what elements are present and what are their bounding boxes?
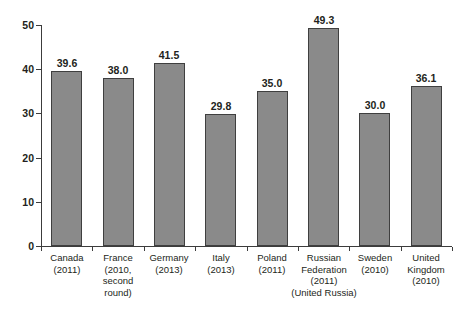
x-tick-mark bbox=[298, 247, 299, 251]
bar bbox=[308, 28, 339, 246]
y-tick-label-wrap: 30 bbox=[0, 108, 34, 118]
y-tick-label-wrap: 50 bbox=[0, 20, 34, 30]
y-tick-label: 30 bbox=[2, 108, 34, 118]
y-tick-label: 0 bbox=[2, 241, 34, 251]
bar bbox=[103, 78, 134, 246]
x-tick-mark bbox=[349, 247, 350, 251]
x-tick-mark bbox=[144, 247, 145, 251]
bar bbox=[411, 86, 442, 246]
bar bbox=[154, 63, 185, 246]
y-tick-mark bbox=[36, 25, 42, 26]
bar bbox=[205, 114, 236, 246]
bar-value-label: 38.0 bbox=[90, 65, 146, 76]
x-tick-mark bbox=[92, 247, 93, 251]
category-label-line: round) bbox=[83, 287, 153, 299]
y-tick-mark bbox=[36, 202, 42, 203]
y-tick-label-wrap: 0 bbox=[0, 241, 34, 251]
y-tick-label: 20 bbox=[2, 153, 34, 163]
y-tick-label-wrap: 40 bbox=[0, 64, 34, 74]
y-tick-label: 40 bbox=[2, 64, 34, 74]
category-label-line: (United Russia) bbox=[289, 287, 359, 299]
y-tick-label-wrap: 20 bbox=[0, 153, 34, 163]
bar-value-label: 49.3 bbox=[296, 15, 352, 26]
category-label-line: (2010) bbox=[391, 275, 461, 287]
x-tick-mark bbox=[41, 247, 42, 251]
y-tick-mark bbox=[36, 113, 42, 114]
bar-value-label: 30.0 bbox=[347, 100, 403, 111]
y-tick-mark bbox=[36, 69, 42, 70]
x-tick-mark bbox=[452, 247, 453, 251]
x-tick-mark bbox=[401, 247, 402, 251]
bar bbox=[257, 91, 288, 246]
bar-value-label: 41.5 bbox=[141, 50, 197, 61]
x-tick-mark bbox=[195, 247, 196, 251]
y-tick-mark bbox=[36, 158, 42, 159]
bar bbox=[51, 71, 82, 246]
bar-value-label: 29.8 bbox=[193, 101, 249, 112]
bar-value-label: 36.1 bbox=[398, 73, 454, 84]
y-tick-label: 10 bbox=[2, 197, 34, 207]
category-label-line: Kingdom bbox=[391, 264, 461, 276]
category-label-line: second bbox=[83, 275, 153, 287]
bar-value-label: 35.0 bbox=[244, 78, 300, 89]
category-label-line: United bbox=[391, 252, 461, 264]
bar-value-label: 39.6 bbox=[39, 58, 95, 69]
category-label: UnitedKingdom(2010) bbox=[391, 252, 461, 287]
bar-chart: 01020304050 39.638.041.529.835.049.330.0… bbox=[0, 0, 461, 310]
category-label-line: (2011) bbox=[289, 275, 359, 287]
bar bbox=[359, 113, 390, 246]
y-tick-label-wrap: 10 bbox=[0, 197, 34, 207]
x-tick-mark bbox=[247, 247, 248, 251]
y-tick-label: 50 bbox=[2, 20, 34, 30]
